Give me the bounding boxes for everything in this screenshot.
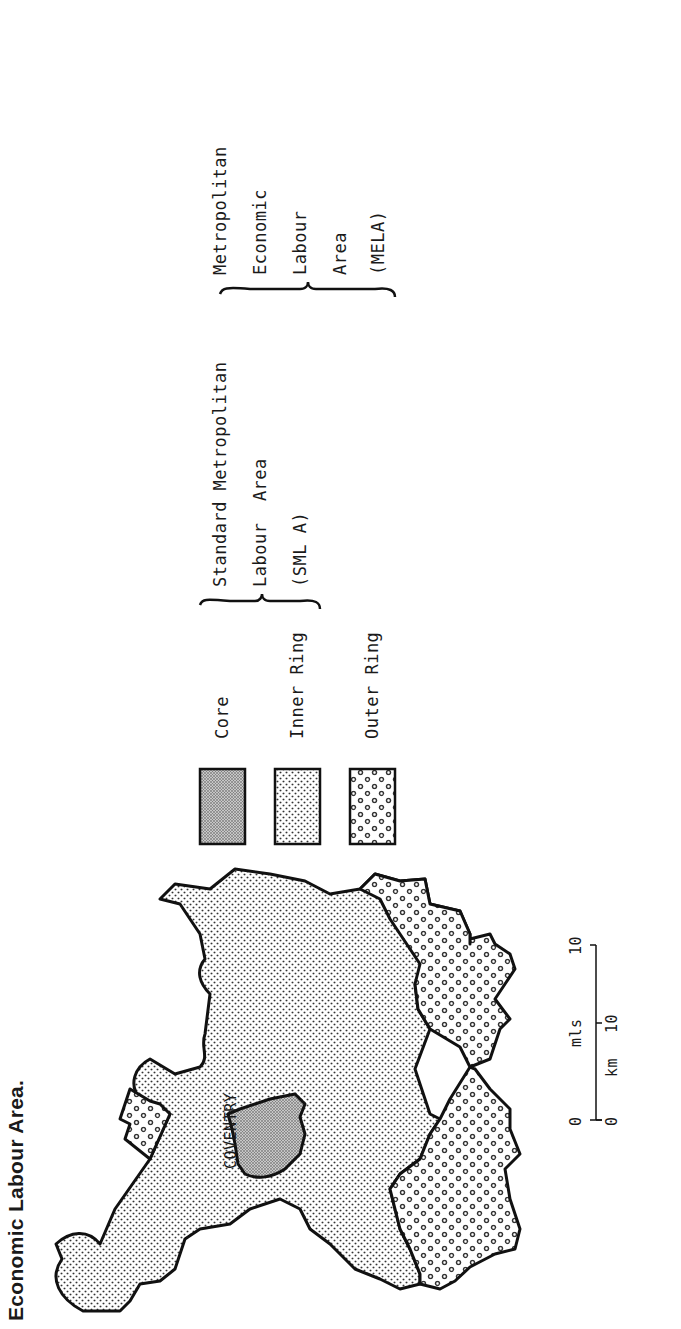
mela-line-4: Area	[330, 232, 350, 275]
mela-line-5: (MELA)	[368, 211, 388, 275]
smla-line-2: Labour Area	[250, 458, 270, 587]
smla-line-3: (SML A)	[290, 512, 310, 587]
scale-km-ten: 10	[603, 1014, 621, 1033]
legend-swatch-inner-ring	[275, 769, 320, 844]
scale-km-label: km	[603, 1058, 621, 1077]
smla-line-1: Standard Metropolitan	[210, 362, 230, 587]
mela-line-2: Economic	[250, 189, 270, 275]
map-canvas	[0, 0, 681, 1329]
mela-line-1: Metropolitan	[210, 146, 230, 275]
scale-miles-zero: 0	[567, 1116, 585, 1126]
legend-swatch-core	[200, 769, 245, 844]
coventry-label: COVENTRY	[222, 1093, 240, 1169]
brace-smla-icon	[200, 594, 320, 609]
scale-miles-ten: 10	[567, 936, 585, 955]
mela-line-3: Labour	[290, 211, 310, 275]
legend-label-outer-ring: Outer Ring	[362, 632, 382, 739]
brace-mela-icon	[220, 282, 395, 297]
scale-miles-label: mls	[567, 1018, 585, 1047]
legend-label-core: Core	[212, 696, 232, 739]
legend-label-inner-ring: Inner Ring	[287, 632, 307, 739]
scale-bar	[590, 945, 602, 1120]
scale-km-zero: 0	[603, 1116, 621, 1126]
map-figure: Economic Labour Area.	[0, 0, 681, 1329]
legend-swatch-outer-ring	[350, 769, 395, 844]
